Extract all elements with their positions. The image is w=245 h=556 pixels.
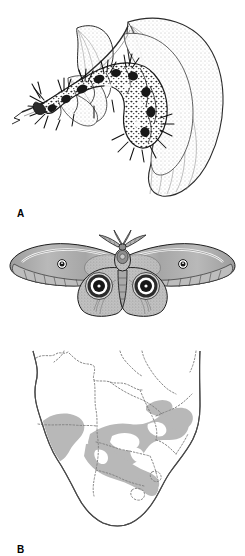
panel-label-a: A — [17, 209, 24, 219]
forewing-left-eyespot — [58, 260, 67, 269]
panel-b-adult-moth: B — [0, 228, 245, 318]
hindwing-left-eyespot — [86, 273, 113, 300]
forewing-right-eyespot — [179, 260, 188, 269]
panel-label-b: B — [17, 545, 24, 555]
figure-plate: A — [0, 0, 245, 556]
panel-a-caterpillar: A — [0, 0, 245, 205]
panel-c-distribution-map: C — [0, 338, 245, 538]
hindwing-right-eyespot — [133, 273, 160, 300]
